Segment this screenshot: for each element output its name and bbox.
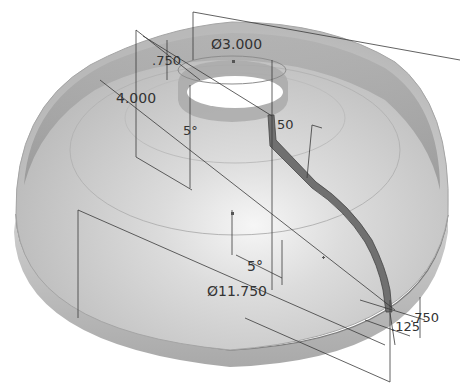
dim-top-diameter[interactable]: Ø3.000 bbox=[211, 37, 262, 51]
dim-base-diameter[interactable]: Ø11.750 bbox=[207, 284, 267, 298]
dim-rib-top[interactable]: 50 bbox=[277, 118, 294, 131]
dim-lip-height[interactable]: .750 bbox=[152, 54, 181, 67]
dim-upper-angle[interactable]: 5° bbox=[183, 124, 198, 137]
cad-viewport: Ø3.000 .750 4.000 5° 50 5° Ø11.750 .750 … bbox=[0, 0, 464, 388]
dim-lower-angle[interactable]: 5° bbox=[247, 259, 263, 273]
dim-rim-offset[interactable]: .125 bbox=[391, 320, 420, 333]
dim-dome-height[interactable]: 4.000 bbox=[116, 91, 156, 105]
